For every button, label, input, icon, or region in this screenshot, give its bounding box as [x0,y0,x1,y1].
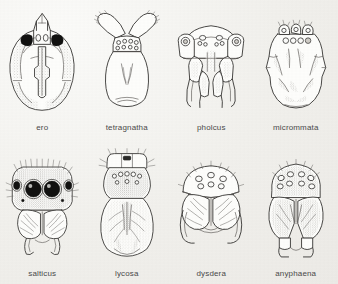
specimen-drawing-ero [0,0,85,124]
specimen-cell-pholcus: pholcus [169,0,254,138]
specimen-cell-salticus: salticus [0,138,85,284]
specimen-label-ero: ero [36,124,48,138]
specimen-label-tetragnatha: tetragnatha [106,124,148,138]
specimen-label-salticus: salticus [28,270,56,284]
illustration-plate: ero [0,0,338,284]
specimen-cell-dysdera: dysdera [169,138,254,284]
specimen-cell-lycosa: lycosa [85,138,170,284]
specimen-label-pholcus: pholcus [197,124,226,138]
specimen-label-micrommata: micrommata [273,124,319,138]
specimen-drawing-pholcus [169,0,254,124]
specimen-drawing-anyphaena [254,138,338,270]
specimen-cell-ero: ero [0,0,85,138]
specimen-drawing-micrommata [254,0,338,124]
specimen-cell-tetragnatha: tetragnatha [85,0,170,138]
specimen-label-lycosa: lycosa [115,270,139,284]
specimen-label-dysdera: dysdera [196,270,226,284]
specimen-drawing-lycosa [85,138,170,270]
specimen-grid: ero [0,0,338,284]
specimen-drawing-dysdera [169,138,254,270]
specimen-cell-micrommata: micrommata [254,0,338,138]
specimen-drawing-salticus [0,138,85,270]
specimen-drawing-tetragnatha [85,0,170,124]
specimen-cell-anyphaena: anyphaena [254,138,338,284]
specimen-label-anyphaena: anyphaena [275,270,316,284]
